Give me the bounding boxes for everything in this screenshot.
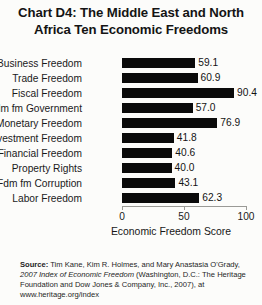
x-axis-tick-label: 50 xyxy=(164,210,204,223)
chart-plot-area: Business Freedom59.1Trade Freedom60.9Fis… xyxy=(0,56,262,206)
bar xyxy=(122,88,234,98)
chart-bar-row: Fiscal Freedom90.4 xyxy=(0,86,262,101)
chart-bar-row: Fdm fm Corruption43.1 xyxy=(0,176,262,191)
bar-category-label: Fiscal Freedom xyxy=(0,86,82,101)
bar-category-label: Monetary Freedom xyxy=(0,116,82,131)
bar-track: 60.9 xyxy=(122,71,246,86)
source-label: Source: xyxy=(20,260,48,269)
bar-value-label: 43.1 xyxy=(178,176,198,190)
bar-category-label: Labor Freedom xyxy=(0,191,82,206)
chart-page: Chart D4: The Middle East and North Afri… xyxy=(0,0,262,305)
source-publication-title: 2007 Index of Economic Freedom xyxy=(20,270,134,279)
source-line-4-url: www.heritage.org/index xyxy=(20,290,99,299)
bar-value-label: 57.0 xyxy=(196,101,216,115)
source-line-2-rest: (Washington, D.C.: The Heritage xyxy=(134,270,246,279)
bar-track: 43.1 xyxy=(122,176,246,191)
bar-track: 40.6 xyxy=(122,146,246,161)
bar-value-label: 59.1 xyxy=(198,56,218,70)
bar xyxy=(122,73,198,83)
bar-track: 41.8 xyxy=(122,131,246,146)
bar xyxy=(122,118,217,128)
bar-category-label: Fdm fm Government xyxy=(0,101,82,116)
chart-title-line-1: Chart D4: The Middle East and North xyxy=(18,5,244,20)
bar-category-label: Business Freedom xyxy=(0,56,82,71)
bar-track: 57.0 xyxy=(122,101,246,116)
bar-value-label: 40.6 xyxy=(175,146,195,160)
bar xyxy=(122,148,172,158)
chart-bar-row: Financial Freedom40.6 xyxy=(0,146,262,161)
source-note: Source: Tim Kane, Kim R. Holmes, and Mar… xyxy=(20,260,252,300)
bar-category-label: Investment Freedom xyxy=(0,131,82,146)
chart-bar-row: Trade Freedom60.9 xyxy=(0,71,262,86)
bar-track: 90.4 xyxy=(122,86,246,101)
bar-value-label: 40.0 xyxy=(175,161,195,175)
bar-track: 62.3 xyxy=(122,191,246,206)
chart-bar-row: Fdm fm Government57.0 xyxy=(0,101,262,116)
source-line-3: Foundation and Dow Jones & Company, Inc.… xyxy=(20,280,204,289)
bar-value-label: 90.4 xyxy=(237,86,257,100)
bar-category-label: Financial Freedom xyxy=(0,146,82,161)
x-axis-tick-label: 100 xyxy=(226,210,262,223)
bar-category-label: Fdm fm Corruption xyxy=(0,176,82,191)
x-axis-tick-label: 0 xyxy=(102,210,142,223)
chart-title-line-2: Africa Ten Economic Freedoms xyxy=(34,22,228,37)
source-line-1-rest: Tim Kane, Kim R. Holmes, and Mary Anasta… xyxy=(48,260,240,269)
chart-bar-row: Labor Freedom62.3 xyxy=(0,191,262,206)
bar xyxy=(122,58,195,68)
bar-track: 40.0 xyxy=(122,161,246,176)
bar xyxy=(122,103,193,113)
bar-track: 59.1 xyxy=(122,56,246,71)
chart-bar-row: Investment Freedom41.8 xyxy=(0,131,262,146)
chart-bar-row: Business Freedom59.1 xyxy=(0,56,262,71)
bar-track: 76.9 xyxy=(122,116,246,131)
chart-bar-row: Property Rights40.0 xyxy=(0,161,262,176)
bar xyxy=(122,193,199,203)
bar-category-label: Trade Freedom xyxy=(0,71,82,86)
bar-category-label: Property Rights xyxy=(0,161,82,176)
x-axis-title: Economic Freedom Score xyxy=(86,226,256,237)
bar-value-label: 76.9 xyxy=(220,116,240,130)
bar xyxy=(122,178,175,188)
bar-value-label: 62.3 xyxy=(202,191,222,205)
bar xyxy=(122,133,174,143)
bar xyxy=(122,163,172,173)
chart-bar-row: Monetary Freedom76.9 xyxy=(0,116,262,131)
bar-value-label: 41.8 xyxy=(177,131,197,145)
chart-title: Chart D4: The Middle East and North Afri… xyxy=(6,4,256,38)
bar-value-label: 60.9 xyxy=(201,71,221,85)
